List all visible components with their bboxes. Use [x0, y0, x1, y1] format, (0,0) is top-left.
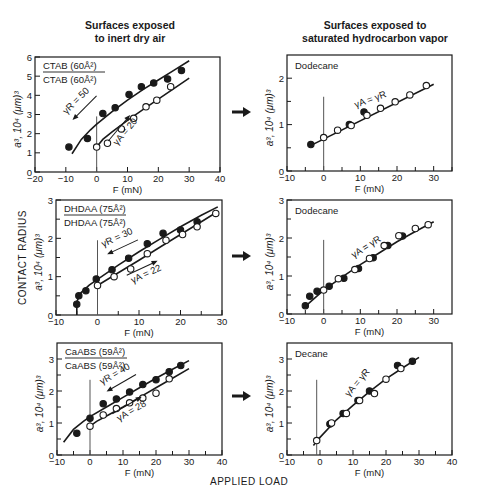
- y-tick-label: 0: [279, 166, 284, 177]
- open-data-point: [87, 423, 93, 429]
- legend-top: CTAB (60Å²): [43, 60, 97, 71]
- x-tick-label: 40: [217, 456, 228, 467]
- legend-top: CaABS (59Å²): [65, 346, 125, 357]
- vapor-name-label: Dodecane: [295, 205, 338, 216]
- svg-text:γR = 30: γR = 30: [99, 225, 134, 249]
- transition-arrow-icon: [232, 391, 251, 401]
- x-tick-label: 0: [87, 456, 92, 467]
- x-axis-label: F (mN): [113, 184, 143, 195]
- filled-data-point: [100, 110, 106, 116]
- x-tick-label: 30: [217, 316, 228, 327]
- gamma-annotation: γA = 20: [106, 113, 139, 148]
- x-tick-label: 0: [321, 172, 326, 183]
- open-data-point: [412, 225, 418, 231]
- open-data-point: [100, 412, 106, 418]
- filled-data-point: [153, 377, 159, 383]
- filled-data-point: [302, 302, 308, 308]
- y-tick-label: 1: [279, 271, 284, 282]
- filled-data-point: [178, 362, 184, 368]
- y-axis-label: a³, 10⁴ (μm)³: [12, 91, 23, 148]
- figure-canvas: −20−100102030400123456F (mN)a³, 10⁴ (μm)…: [0, 0, 477, 500]
- y-tick-label: 2: [27, 128, 32, 139]
- x-tick-label: 20: [381, 456, 392, 467]
- y-tick-label: 2: [48, 233, 53, 244]
- x-axis-label: F (mN): [355, 467, 385, 478]
- transition-arrow-icon: [232, 107, 251, 117]
- filled-data-point: [140, 381, 146, 387]
- y-tick-label: 0: [279, 450, 284, 461]
- open-data-point: [128, 266, 134, 272]
- x-tick-label: 10: [348, 456, 359, 467]
- open-data-point: [343, 410, 349, 416]
- open-data-point: [396, 233, 402, 239]
- open-data-point: [356, 397, 362, 403]
- filled-data-point: [409, 358, 415, 364]
- y-tick-label: 2: [279, 233, 284, 244]
- x-tick-label: 20: [392, 315, 403, 326]
- vapor-name-label: Decane: [295, 348, 328, 359]
- y-tick-label: 3: [48, 195, 53, 206]
- open-data-point: [371, 390, 377, 396]
- x-tick-label: 10: [118, 456, 129, 467]
- y-tick-label: 2: [279, 386, 284, 397]
- filled-data-point: [66, 144, 72, 150]
- filled-data-point: [112, 105, 118, 111]
- open-data-point: [320, 134, 326, 140]
- open-data-point: [93, 144, 99, 150]
- x-tick-label: 20: [175, 316, 186, 327]
- x-axis-label: F (mN): [125, 467, 155, 478]
- vapor-name-label: Dodecane: [295, 60, 338, 71]
- filled-data-point: [109, 267, 115, 273]
- chart-panel-p5: −100102030400123F (mN)a³, 10⁴ (μm)³CaABS…: [34, 343, 227, 478]
- open-data-point: [377, 105, 383, 111]
- filled-data-point: [151, 80, 157, 86]
- chart-panel-p2: −100102030012F (mN)a³, 10⁴ (μm)³Dodecane…: [264, 55, 452, 194]
- open-data-point: [314, 437, 320, 443]
- x-tick-label: 40: [447, 456, 458, 467]
- y-tick-label: 1: [27, 147, 32, 158]
- open-data-point: [167, 84, 173, 90]
- y-tick-label: 1: [48, 271, 53, 282]
- open-data-point: [366, 255, 372, 261]
- filled-data-point: [113, 396, 119, 402]
- gamma-annotation: γA = γR: [349, 233, 383, 260]
- y-axis-label: a³, 10⁴ (μm)³: [33, 234, 44, 291]
- x-axis-label: F (mN): [355, 183, 385, 194]
- y-tick-label: 3: [27, 109, 32, 120]
- gamma-annotation: γR = 30: [99, 224, 139, 256]
- x-tick-label: 40: [215, 173, 226, 184]
- svg-text:γA = 20: γA = 20: [110, 116, 139, 148]
- filled-data-point: [76, 293, 82, 299]
- legend-top: DHDAA (75Å²): [64, 203, 126, 214]
- svg-text:γA = γR: γA = γR: [349, 233, 383, 260]
- y-tick-label: 0: [48, 310, 53, 321]
- filled-data-point: [83, 288, 89, 294]
- x-tick-label: 30: [414, 456, 425, 467]
- filled-data-point: [144, 241, 150, 247]
- open-data-point: [352, 266, 358, 272]
- open-data-point: [335, 275, 341, 281]
- y-axis-label: a³, 10⁴ (μm)³: [264, 375, 275, 432]
- open-data-point: [381, 242, 387, 248]
- chart-panel-p3: −1001020300123F (mN)a³, 10⁴ (μm)³DHDAA (…: [33, 195, 227, 339]
- y-axis-label: a³, 10⁴ (μm)³: [264, 89, 275, 146]
- filled-data-point: [166, 369, 172, 375]
- y-tick-label: 6: [27, 52, 32, 63]
- y-tick-label: 0: [27, 167, 32, 178]
- y-tick-label: 1: [49, 418, 54, 429]
- open-data-point: [94, 282, 100, 288]
- x-tick-label: 30: [428, 315, 439, 326]
- x-tick-label: 30: [428, 172, 439, 183]
- y-tick-label: 2: [279, 73, 284, 84]
- open-data-point: [163, 237, 169, 243]
- filled-data-point: [308, 141, 314, 147]
- svg-text:γR = 50: γR = 50: [60, 85, 91, 116]
- x-tick-label: 0: [321, 315, 326, 326]
- filled-data-point: [126, 389, 132, 395]
- legend-bottom: CTAB (60Å²): [43, 74, 97, 85]
- y-tick-label: 4: [27, 90, 32, 101]
- transition-arrow-icon: [232, 251, 251, 261]
- open-data-point: [166, 376, 172, 382]
- x-tick-label: 20: [151, 456, 162, 467]
- x-tick-label: 10: [122, 173, 133, 184]
